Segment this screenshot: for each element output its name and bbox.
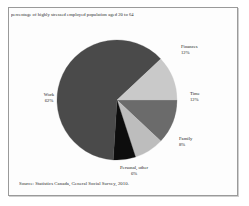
slice-label-time: Time 12% bbox=[190, 91, 200, 102]
slice-label-family: Family 8% bbox=[179, 136, 192, 147]
slice-value-finances: 12% bbox=[181, 50, 198, 56]
slice-name-time: Time bbox=[190, 91, 200, 97]
slice-label-personal-other: Personal, other 6% bbox=[104, 165, 164, 176]
slice-value-time: 12% bbox=[190, 97, 200, 103]
slice-name-finances: Finances bbox=[181, 44, 198, 50]
figure-panel: percentage of highly stressed employed p… bbox=[0, 0, 249, 206]
source-note: Source: Statistics Canada, General Socia… bbox=[19, 180, 224, 187]
pie-slices bbox=[57, 40, 177, 160]
slice-value-personal-other: 6% bbox=[104, 171, 164, 177]
slice-value-work: 62% bbox=[36, 98, 62, 104]
slice-label-work: Work 62% bbox=[36, 92, 62, 103]
slice-label-finances: Finances 12% bbox=[181, 44, 198, 55]
slice-name-family: Family bbox=[179, 136, 192, 142]
slice-value-family: 8% bbox=[179, 142, 192, 148]
